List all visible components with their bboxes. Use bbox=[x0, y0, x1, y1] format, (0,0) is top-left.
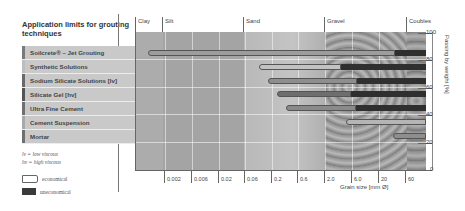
bar-economical bbox=[393, 133, 426, 139]
y-axis bbox=[432, 32, 433, 170]
row-accent bbox=[22, 130, 25, 143]
xtick-label: 2.0 bbox=[324, 171, 335, 183]
row-accent bbox=[22, 60, 25, 73]
economical-swatch-icon bbox=[22, 175, 38, 183]
gridline bbox=[136, 142, 426, 143]
technique-row: Cement Suspension bbox=[22, 116, 135, 130]
xtick-label: 0.2 bbox=[271, 171, 282, 183]
bar-synthetic bbox=[259, 64, 426, 70]
gridline bbox=[136, 87, 426, 88]
technique-label: Silicate Gel [hv] bbox=[30, 91, 76, 98]
xtick-label: 6.0 bbox=[351, 171, 362, 183]
bar-economical bbox=[148, 50, 395, 56]
legend-economical: economical bbox=[22, 175, 67, 183]
chart-title: Application limits for grouting techniqu… bbox=[22, 20, 132, 38]
ytick-label: 60 bbox=[426, 84, 433, 90]
bar-uneconomical bbox=[395, 50, 426, 56]
technique-label: Soilcrete® – Jet Grouting bbox=[30, 49, 104, 56]
bar-uneconomical bbox=[341, 64, 426, 70]
row-accent bbox=[22, 74, 25, 87]
xtick-label: 0.006 bbox=[191, 171, 208, 183]
uneconomical-swatch-icon bbox=[22, 188, 36, 195]
bar-economical bbox=[277, 91, 351, 97]
legend-uneconomical: uneconomical bbox=[22, 188, 71, 195]
xtick-label: 0.002 bbox=[164, 171, 181, 183]
technique-row: Sodium Silicate Solutions [lv] bbox=[22, 74, 135, 88]
technique-labels: Soilcrete® – Jet Grouting Synthetic Solu… bbox=[22, 46, 135, 144]
row-accent bbox=[22, 102, 25, 115]
y-axis-label: Passing by weight [%] bbox=[444, 35, 450, 94]
xtick-label: 20 bbox=[378, 171, 387, 183]
ytick-label: 20 bbox=[426, 139, 433, 145]
viscosity-notes: lv = low viscous hv = high viscous bbox=[22, 150, 61, 166]
row-accent bbox=[22, 88, 25, 101]
technique-label: Synthetic Solutions bbox=[30, 63, 88, 70]
bar-uneconomical bbox=[357, 78, 426, 84]
xtick-label: 0.06 bbox=[244, 171, 258, 183]
gridline bbox=[136, 114, 426, 115]
legend-uneconomical-label: uneconomical bbox=[40, 189, 71, 195]
bar-economical bbox=[346, 119, 426, 125]
bar-silicate-gel bbox=[277, 91, 426, 97]
xtick-label: 0.02 bbox=[218, 171, 232, 183]
technique-row: Synthetic Solutions bbox=[22, 60, 135, 74]
note-high-viscous: hv = high viscous bbox=[22, 158, 61, 166]
technique-label: Ultra Fine Cement bbox=[30, 105, 83, 112]
xtick-label: 0.6 bbox=[297, 171, 308, 183]
technique-row: Soilcrete® – Jet Grouting bbox=[22, 46, 135, 60]
soil-class-silt: Silt bbox=[162, 17, 173, 32]
bar-uneconomical bbox=[356, 105, 426, 111]
row-accent bbox=[22, 116, 25, 129]
ytick-label: 40 bbox=[426, 111, 433, 117]
bar-ultra-fine-cement bbox=[286, 105, 426, 111]
gridline bbox=[136, 59, 426, 60]
bar-economical bbox=[268, 78, 357, 84]
technique-label: Mortar bbox=[30, 133, 49, 140]
technique-row: Ultra Fine Cement bbox=[22, 102, 135, 116]
chart-plot-area bbox=[135, 32, 426, 171]
row-accent bbox=[22, 46, 25, 59]
ytick-label: 100 bbox=[426, 29, 436, 35]
soil-class-sand: Sand bbox=[243, 17, 260, 32]
bar-economical bbox=[259, 64, 341, 70]
technique-label: Cement Suspension bbox=[30, 119, 89, 126]
technique-label: Sodium Silicate Solutions [lv] bbox=[30, 77, 117, 84]
soil-class-clay: Clay bbox=[135, 17, 150, 32]
soil-class-gravel: Gravel bbox=[324, 17, 345, 32]
x-axis-label: Grain size [mm Ø] bbox=[340, 184, 388, 190]
note-low-viscous: lv = low viscous bbox=[22, 150, 61, 158]
bar-soilcrete bbox=[148, 50, 426, 56]
bar-mortar bbox=[393, 133, 426, 139]
xtick-label: 60 bbox=[405, 171, 414, 183]
ytick-label: 80 bbox=[426, 56, 433, 62]
legend-economical-label: economical bbox=[42, 176, 67, 182]
bar-cement-suspension bbox=[346, 119, 426, 125]
technique-row: Mortar bbox=[22, 130, 135, 144]
bar-uneconomical bbox=[351, 91, 426, 97]
bar-economical bbox=[286, 105, 356, 111]
ytick-label: 0 bbox=[430, 166, 433, 172]
technique-row: Silicate Gel [hv] bbox=[22, 88, 135, 102]
bar-sodium-silicate bbox=[268, 78, 426, 84]
